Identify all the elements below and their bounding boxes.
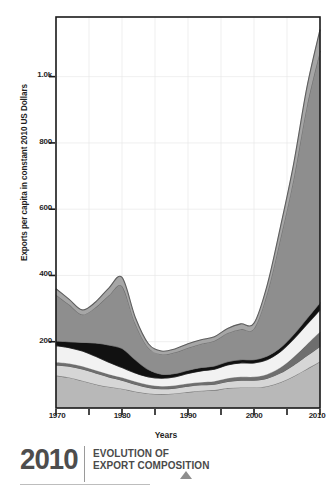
footer-title-line2: EXPORT COMPOSITION: [93, 460, 209, 472]
chart-figure: Exports per capita in constant 2010 US D…: [0, 0, 332, 485]
stacked-area-plot: [0, 0, 332, 485]
footer-year: 2010: [20, 442, 78, 476]
footer-divider: [84, 446, 85, 482]
footer-title-line1: EVOLUTION OF: [93, 448, 209, 460]
figure-footer: 2010 EVOLUTION OF EXPORT COMPOSITION: [0, 444, 332, 485]
triangle-up-icon: [180, 471, 192, 479]
footer-title: EVOLUTION OF EXPORT COMPOSITION: [93, 448, 209, 471]
